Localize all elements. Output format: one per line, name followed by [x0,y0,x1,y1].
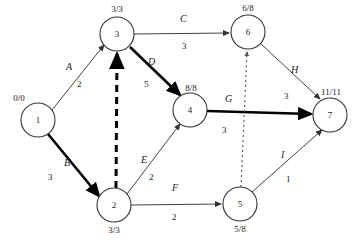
edge-weight-C: 3 [182,42,187,51]
edge-weight-G: 3 [222,126,227,135]
edge-weight-F: 2 [172,213,177,222]
edge-label-B: B [64,158,70,168]
node-time-1: 0/0 [6,94,32,103]
node-time-7: 11/11 [314,88,348,97]
edge-label-D: D [148,57,155,67]
edge-weight-H: 3 [284,92,289,101]
node-label-1: 1 [28,116,48,125]
node-time-6: 6/8 [235,4,261,13]
edge-label-I: I [281,150,284,160]
edge-weight-E: 2 [149,173,154,182]
network-graph-svg [0,0,360,248]
edge-line-B [48,134,99,196]
node-label-7: 7 [320,111,340,120]
edge-label-F: F [172,183,178,193]
node-label-3: 3 [107,30,127,39]
edge-label-H: H [291,65,298,75]
node-label-5: 5 [230,200,250,209]
node-label-2: 2 [104,201,124,210]
edge-line-dummy-2-3 [116,54,117,188]
node-time-5: 5/8 [227,225,253,234]
node-time-4: 8/8 [178,84,204,93]
node-label-4: 4 [180,106,200,115]
edge-line-C [134,33,229,34]
node-time-3: 3/3 [104,5,130,14]
edge-line-G [207,111,311,114]
edge-line-A [52,45,104,110]
edge-line-dummy-5-6 [241,52,247,187]
edge-label-A: A [66,62,72,72]
edge-weight-A: 2 [77,80,82,89]
edge-weight-D: 5 [144,80,149,89]
node-label-6: 6 [238,28,258,37]
edge-line-F [131,204,221,205]
edge-label-E: E [141,155,147,165]
edge-label-C: C [180,14,187,24]
edge-line-D [130,47,180,95]
network-diagram-canvas: 1 2 3 4 5 6 7 0/0 3/3 3/3 8/8 5/8 6/8 11… [0,0,360,248]
edge-weight-I: 1 [286,175,291,184]
edge-weight-B: 3 [48,173,53,182]
edge-label-G: G [225,94,232,104]
node-time-2: 3/3 [101,226,127,235]
